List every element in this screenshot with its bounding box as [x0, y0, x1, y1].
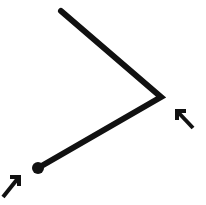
- canvas-background: [0, 0, 206, 205]
- lower-endpoint-dot: [32, 162, 44, 174]
- angle-figure-svg: [0, 0, 206, 205]
- figure-canvas: [0, 0, 206, 205]
